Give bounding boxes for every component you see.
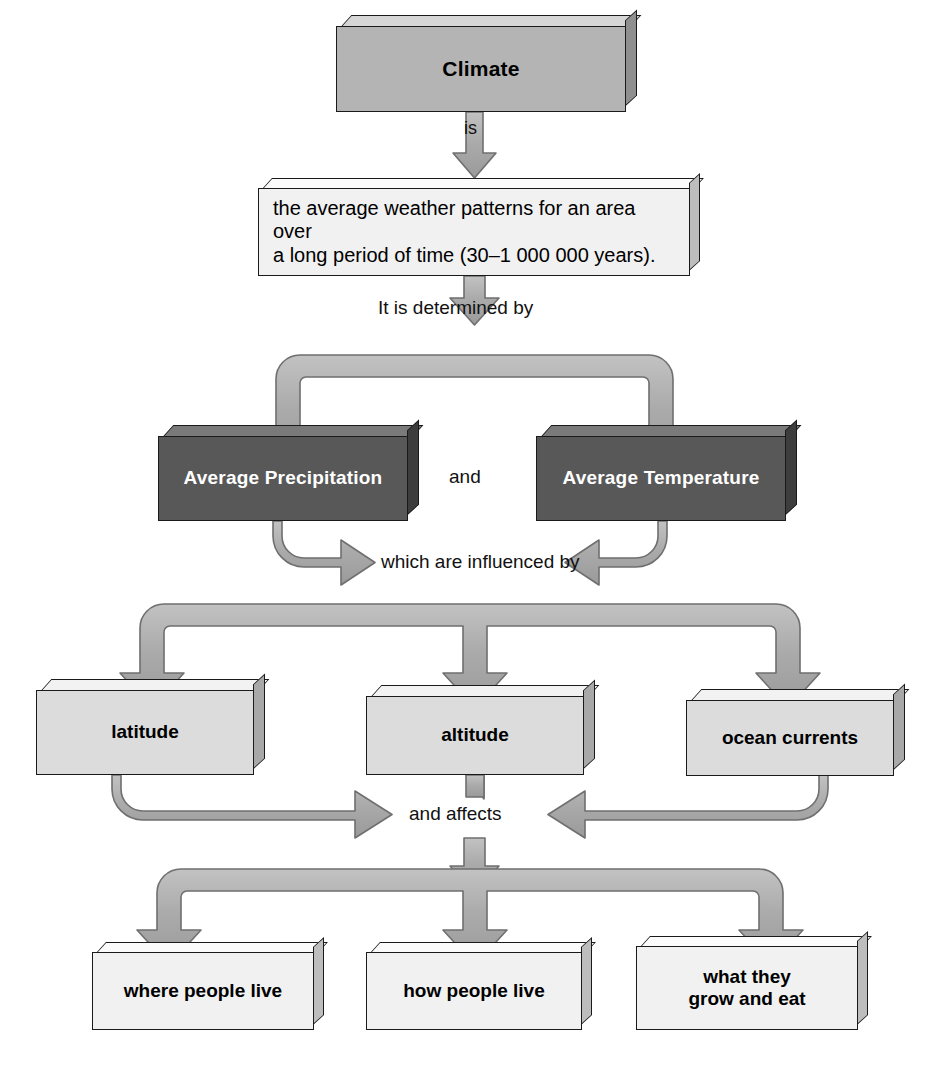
node-latitude-side-bevel bbox=[253, 674, 265, 770]
node-average-precipitation-face: Average Precipitation bbox=[158, 436, 408, 521]
node-what-they-grow-and-eat-side-bevel bbox=[857, 931, 868, 1025]
node-how-people-live-face: how people live bbox=[366, 952, 582, 1030]
node-definition[interactable]: the average weather patterns for an area… bbox=[258, 188, 690, 276]
node-how-people-live-label: how people live bbox=[393, 980, 554, 1002]
node-average-temperature-side-bevel bbox=[785, 420, 797, 516]
connector-label-is: is bbox=[464, 118, 477, 139]
arrow-precipitation-to-influenced bbox=[273, 521, 375, 585]
node-where-people-live-side-bevel bbox=[313, 937, 324, 1025]
connector-label-it-is-determined-by: It is determined by bbox=[378, 297, 533, 319]
node-altitude-side-bevel bbox=[583, 680, 595, 770]
node-average-temperature-label: Average Temperature bbox=[552, 467, 769, 489]
node-where-people-live[interactable]: where people live bbox=[92, 952, 314, 1030]
arrow-altitude-stem bbox=[466, 775, 484, 797]
flowchart-canvas: Climate the average weather patterns for… bbox=[0, 0, 940, 1070]
node-ocean-currents[interactable]: ocean currents bbox=[686, 700, 894, 776]
node-average-temperature-face: Average Temperature bbox=[536, 436, 786, 521]
node-definition-side-bevel bbox=[689, 173, 700, 271]
arrow-latitude-to-affects bbox=[112, 775, 392, 838]
node-where-people-live-face: where people live bbox=[92, 952, 314, 1030]
node-ocean-currents-side-bevel bbox=[893, 684, 905, 771]
node-where-people-live-label: where people live bbox=[114, 980, 292, 1002]
node-average-precipitation-side-bevel bbox=[407, 420, 419, 516]
arrow-ocean-currents-to-affects bbox=[548, 775, 828, 838]
node-definition-face: the average weather patterns for an area… bbox=[258, 188, 690, 276]
node-altitude-face: altitude bbox=[366, 696, 584, 775]
node-what-they-grow-and-eat-face: what they grow and eat bbox=[636, 946, 858, 1030]
node-latitude-label: latitude bbox=[101, 721, 189, 743]
connector-label-and-affects: and affects bbox=[409, 803, 502, 825]
node-altitude-label: altitude bbox=[431, 724, 519, 746]
node-climate[interactable]: Climate bbox=[336, 26, 626, 112]
node-average-precipitation-label: Average Precipitation bbox=[174, 467, 393, 489]
node-latitude[interactable]: latitude bbox=[36, 690, 254, 775]
node-altitude[interactable]: altitude bbox=[366, 696, 584, 775]
node-ocean-currents-face: ocean currents bbox=[686, 700, 894, 776]
node-ocean-currents-label: ocean currents bbox=[712, 727, 868, 749]
arrow-temperature-to-influenced bbox=[565, 521, 667, 585]
node-climate-label: Climate bbox=[432, 57, 529, 82]
node-definition-label: the average weather patterns for an area… bbox=[259, 197, 689, 268]
node-average-temperature[interactable]: Average Temperature bbox=[536, 436, 786, 521]
connector-label-which-are-influenced-by: which are influenced by bbox=[381, 551, 580, 573]
node-how-people-live-side-bevel bbox=[581, 937, 592, 1025]
connector-label-and: and bbox=[449, 466, 481, 488]
connector-layer bbox=[0, 0, 940, 1070]
node-what-they-grow-and-eat-label: what they grow and eat bbox=[678, 966, 815, 1011]
node-average-precipitation[interactable]: Average Precipitation bbox=[158, 436, 408, 521]
node-how-people-live[interactable]: how people live bbox=[366, 952, 582, 1030]
node-climate-face: Climate bbox=[336, 26, 626, 112]
node-latitude-face: latitude bbox=[36, 690, 254, 775]
node-climate-side-bevel bbox=[625, 10, 637, 107]
node-what-they-grow-and-eat[interactable]: what they grow and eat bbox=[636, 946, 858, 1030]
